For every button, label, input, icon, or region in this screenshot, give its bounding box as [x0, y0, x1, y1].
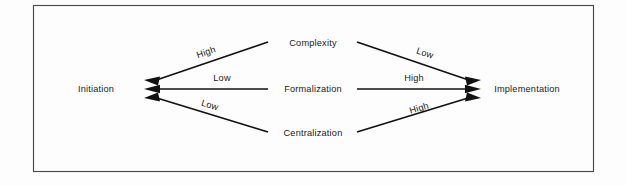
arrowheads-right-group — [465, 77, 481, 102]
edge-label-formalization-to-implementation: High — [404, 73, 424, 83]
figure-root: Initiation Complexity Formalization Cent… — [0, 0, 626, 185]
edge-label-formalization-to-initiation: Low — [213, 73, 231, 83]
node-label-implementation: Implementation — [494, 84, 560, 94]
diagram-canvas: Initiation Complexity Formalization Cent… — [0, 0, 626, 185]
node-label-initiation: Initiation — [78, 84, 114, 94]
node-label-complexity: Complexity — [289, 38, 337, 48]
node-label-formalization: Formalization — [284, 84, 342, 94]
node-label-centralization: Centralization — [284, 128, 343, 138]
arrowheads-left-group — [144, 77, 160, 102]
